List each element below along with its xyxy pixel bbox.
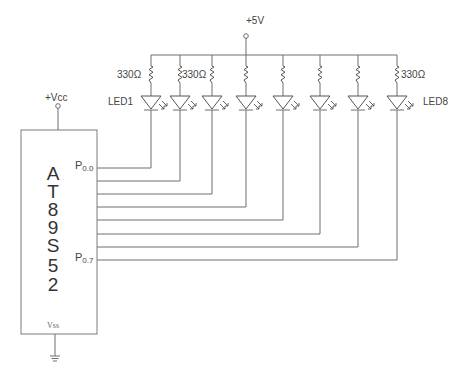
led-icon — [141, 96, 167, 110]
led-column-4 — [236, 55, 262, 110]
led-icon — [273, 96, 299, 110]
led-column-2 — [170, 55, 196, 110]
pin-route-2 — [97, 110, 180, 181]
led-column-7 — [348, 55, 374, 110]
circuit-diagram: +5V +Vcc 330Ω 330Ω 330Ω LED1 LED8 A T 8 … — [0, 0, 465, 376]
resistor-label-8: 330Ω — [401, 70, 425, 80]
led-icon — [170, 96, 196, 110]
pin-p07-sub: 0.7 — [82, 256, 93, 265]
led-icon — [310, 96, 336, 110]
pin-route-6 — [97, 110, 320, 234]
pin-route-1 — [97, 110, 151, 168]
pin-p00-label: P0.0 — [75, 160, 93, 173]
resistor-icon — [149, 66, 153, 83]
pin-route-4 — [97, 110, 246, 207]
ground-icon — [50, 334, 60, 361]
led-columns — [141, 55, 413, 110]
chip-letter: 5 — [43, 256, 63, 275]
led-column-1 — [141, 55, 167, 110]
vcc-terminal — [56, 104, 61, 130]
led-column-5 — [273, 55, 299, 110]
supply-5v-terminal — [244, 34, 249, 55]
schematic-canvas — [0, 0, 465, 376]
led-column-6 — [310, 55, 336, 110]
led-icon — [387, 96, 413, 110]
resistor-label-1: 330Ω — [117, 70, 141, 80]
vcc-label: +Vcc — [45, 93, 68, 103]
led8-label: LED8 — [423, 97, 448, 107]
resistor-icon — [356, 66, 360, 83]
pin-p07-label: P0.7 — [75, 252, 93, 265]
resistor-icon — [395, 66, 399, 83]
led-column-8 — [387, 55, 413, 110]
resistor-icon — [244, 66, 248, 83]
led-icon — [236, 96, 262, 110]
led-icon — [202, 96, 228, 110]
pin-routes — [97, 110, 397, 260]
pin-route-8 — [97, 110, 397, 260]
vss-label: Vss — [47, 322, 59, 330]
resistor-icon — [210, 66, 214, 83]
pin-route-5 — [97, 110, 283, 220]
resistor-label-3: 330Ω — [182, 70, 206, 80]
pin-p00-sub: 0.0 — [82, 164, 93, 173]
chip-letter: S — [43, 236, 63, 255]
led-column-3 — [202, 55, 228, 110]
supply-5v-label: +5V — [246, 16, 264, 26]
resistor-icon — [318, 66, 322, 83]
resistor-icon — [281, 66, 285, 83]
led-icon — [348, 96, 374, 110]
chip-letter: 2 — [43, 275, 63, 294]
led1-label: LED1 — [108, 97, 133, 107]
pin-route-7 — [97, 110, 358, 247]
